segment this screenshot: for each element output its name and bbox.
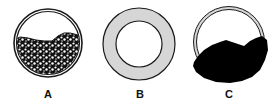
label-b: B bbox=[130, 88, 150, 100]
panel-b-figure bbox=[103, 8, 175, 80]
panel-c-figure bbox=[193, 7, 268, 84]
label-a: A bbox=[38, 88, 58, 100]
panel-a-figure bbox=[14, 9, 82, 80]
label-c: C bbox=[219, 88, 239, 100]
inner-edge-b bbox=[116, 21, 162, 67]
